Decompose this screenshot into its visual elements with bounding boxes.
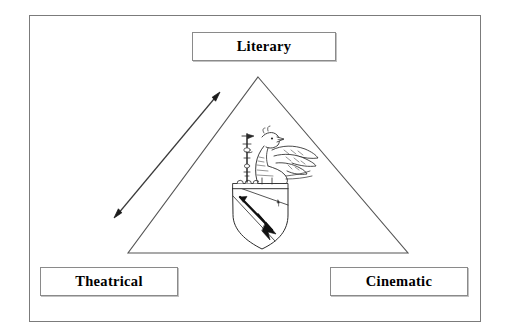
node-label-theatrical[interactable]: Theatrical: [40, 267, 178, 296]
shield-icon: [233, 188, 288, 249]
node-label-theatrical-text: Theatrical: [75, 274, 142, 290]
node-label-literary[interactable]: Literary: [192, 32, 336, 61]
double-headed-arrow: [114, 92, 220, 218]
node-label-cinematic-text: Cinematic: [366, 274, 432, 290]
node-label-literary-text: Literary: [237, 39, 292, 55]
figure-canvas: Literary Theatrical Cinematic: [0, 0, 506, 336]
heraldic-crest-emblem: [233, 126, 318, 249]
staff-icon: [242, 134, 254, 182]
griffin-icon: [256, 126, 318, 184]
node-label-cinematic[interactable]: Cinematic: [330, 267, 468, 296]
